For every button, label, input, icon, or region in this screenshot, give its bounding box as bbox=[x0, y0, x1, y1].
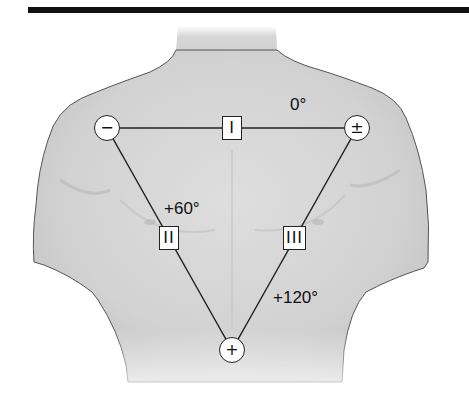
lead-III-box: III bbox=[283, 226, 306, 250]
lead-II-box: II bbox=[159, 226, 179, 250]
angle-label-lead-I: 0° bbox=[290, 95, 306, 115]
positive-electrode-icon: + bbox=[219, 337, 245, 363]
negative-electrode-icon: − bbox=[94, 115, 120, 141]
lead-I-box: I bbox=[222, 116, 242, 140]
angle-label-lead-III: +120° bbox=[273, 288, 318, 308]
plus-minus-electrode-icon: ± bbox=[344, 115, 370, 141]
angle-label-lead-II: +60° bbox=[164, 199, 200, 219]
